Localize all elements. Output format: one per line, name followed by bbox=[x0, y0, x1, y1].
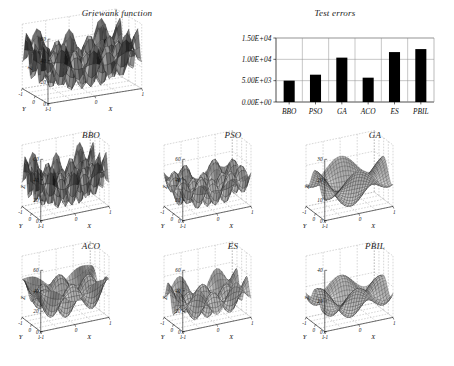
bar-chart-svg: 0.00E+005.00E+031.00E+041.50E+04BBOPSOGA… bbox=[228, 20, 442, 126]
z-axis-label: Z bbox=[303, 296, 310, 300]
z-tick-label: 40 bbox=[317, 267, 323, 273]
panel-title-pbil: PBIL bbox=[300, 241, 450, 251]
y-tick-label: -1 bbox=[18, 209, 23, 215]
y-axis-label: Y bbox=[22, 105, 27, 112]
z-tick-label: 10 bbox=[317, 197, 323, 203]
z-axis-label: Z bbox=[161, 185, 168, 189]
z-axis-label: Z bbox=[19, 185, 26, 189]
y-tick-label: 1 bbox=[180, 223, 183, 229]
panel-griewank-function: Griewank function 0204060-10110-1XYZ bbox=[14, 8, 220, 126]
y-tick-label: 0 bbox=[312, 327, 315, 333]
bar bbox=[415, 49, 426, 102]
x-tick-label: 0 bbox=[217, 327, 220, 333]
surface-svg: 0204060-10110-1XYZ bbox=[16, 254, 166, 353]
x-tick-label: 1 bbox=[109, 320, 112, 326]
x-tick-label: 0 bbox=[359, 327, 362, 333]
bar-category-label: ACO bbox=[360, 107, 376, 116]
x-tick-label: 1 bbox=[393, 320, 396, 326]
x-axis-label: X bbox=[370, 333, 376, 340]
panel-title-pso: PSO bbox=[158, 130, 308, 140]
surface-plot-es: 0204060-10110-1XYZ bbox=[158, 254, 308, 353]
bar-y-tick-label: 1.50E+04 bbox=[242, 34, 272, 43]
bar bbox=[310, 75, 321, 102]
x-tick-label: 1 bbox=[142, 91, 145, 97]
panel-pbil: PBIL 02040-10110-1XYZ bbox=[300, 241, 450, 353]
z-tick-label: 60 bbox=[175, 267, 181, 273]
x-axis-label: X bbox=[228, 222, 234, 229]
surface-plot-aco: 0204060-10110-1XYZ bbox=[16, 254, 166, 353]
y-tick-label: -1 bbox=[18, 320, 23, 326]
x-tick-label: 0 bbox=[359, 216, 362, 222]
x-tick-label: 1 bbox=[251, 320, 254, 326]
y-tick-label: 1 bbox=[45, 106, 48, 112]
panel-aco: ACO 0204060-10110-1XYZ bbox=[16, 241, 166, 353]
x-axis-label: X bbox=[86, 222, 92, 229]
panel-title-es: ES bbox=[158, 241, 308, 251]
surface-plot-ga: 0102030-10110-1XYZ bbox=[300, 143, 450, 242]
z-tick-label: 20 bbox=[317, 298, 323, 304]
y-tick-label: 1 bbox=[180, 334, 183, 340]
y-tick-label: 0 bbox=[32, 99, 35, 105]
z-tick-label: 30 bbox=[317, 156, 323, 162]
bar-category-label: GA bbox=[337, 107, 347, 116]
x-tick-label: 0 bbox=[95, 99, 98, 105]
x-tick-label: -1 bbox=[324, 223, 329, 229]
x-tick-label: 1 bbox=[251, 209, 254, 215]
surface-svg: 02040-10110-1XYZ bbox=[300, 254, 450, 353]
z-tick-label: 20 bbox=[317, 177, 323, 183]
x-tick-label: 1 bbox=[109, 209, 112, 215]
z-tick-label: 40 bbox=[33, 177, 39, 183]
y-tick-label: -1 bbox=[160, 320, 165, 326]
y-axis-label: Y bbox=[161, 333, 166, 340]
bar-y-tick-label: 0.00E+00 bbox=[242, 98, 272, 107]
panel-title-test-errors: Test errors bbox=[228, 8, 442, 18]
x-tick-label: -1 bbox=[40, 334, 45, 340]
panel-bbo: BBO 0204060-10110-1XYZ bbox=[16, 130, 166, 242]
y-tick-label: 0 bbox=[170, 216, 173, 222]
panel-pso: PSO 0204060-10110-1XYZ bbox=[158, 130, 308, 242]
z-axis-label: Z bbox=[26, 66, 33, 70]
bar-category-label: ES bbox=[389, 107, 399, 116]
y-axis-label: Y bbox=[303, 333, 308, 340]
surface-svg: 0204060-10110-1XYZ bbox=[158, 254, 308, 353]
z-tick-label: 40 bbox=[175, 288, 181, 294]
z-tick-label: 60 bbox=[33, 156, 39, 162]
x-axis-label: X bbox=[370, 222, 376, 229]
surface-plot-pso: 0204060-10110-1XYZ bbox=[158, 143, 308, 242]
z-tick-label: 60 bbox=[33, 267, 39, 273]
surface-plot-pbil: 02040-10110-1XYZ bbox=[300, 254, 450, 353]
x-tick-label: 0 bbox=[75, 216, 78, 222]
y-tick-label: -1 bbox=[302, 209, 307, 215]
x-tick-label: -1 bbox=[47, 106, 52, 112]
x-tick-label: -1 bbox=[40, 223, 45, 229]
x-tick-label: 1 bbox=[393, 209, 396, 215]
panel-title-aco: ACO bbox=[16, 241, 166, 251]
surface-svg: 0204060-10110-1XYZ bbox=[14, 22, 220, 126]
z-tick-label: 40 bbox=[41, 58, 47, 64]
y-tick-label: -1 bbox=[18, 91, 23, 97]
surface-mesh bbox=[306, 275, 393, 317]
y-tick-label: 1 bbox=[322, 334, 325, 340]
bar-category-label: BBO bbox=[282, 107, 297, 116]
x-tick-label: -1 bbox=[182, 334, 187, 340]
z-tick-label: 20 bbox=[33, 197, 39, 203]
z-tick-label: 20 bbox=[33, 308, 39, 314]
y-axis-label: Y bbox=[161, 222, 166, 229]
y-tick-label: 0 bbox=[312, 216, 315, 222]
y-tick-label: 0 bbox=[170, 327, 173, 333]
z-axis-label: Z bbox=[161, 296, 168, 300]
bar-y-tick-label: 5.00E+03 bbox=[242, 76, 272, 85]
z-tick-label: 20 bbox=[175, 197, 181, 203]
y-tick-label: -1 bbox=[302, 320, 307, 326]
panel-title-bbo: BBO bbox=[16, 130, 166, 140]
surface-svg: 0204060-10110-1XYZ bbox=[16, 143, 166, 242]
x-axis-label: X bbox=[108, 105, 114, 112]
y-axis-label: Y bbox=[19, 222, 24, 229]
bar-y-tick-label: 1.00E+04 bbox=[242, 55, 272, 64]
y-tick-label: 1 bbox=[38, 334, 41, 340]
surface-svg: 0102030-10110-1XYZ bbox=[300, 143, 450, 242]
x-tick-label: -1 bbox=[324, 334, 329, 340]
z-tick-label: 60 bbox=[41, 36, 47, 42]
z-tick-label: 20 bbox=[175, 308, 181, 314]
panel-ga: GA 0102030-10110-1XYZ bbox=[300, 130, 450, 242]
